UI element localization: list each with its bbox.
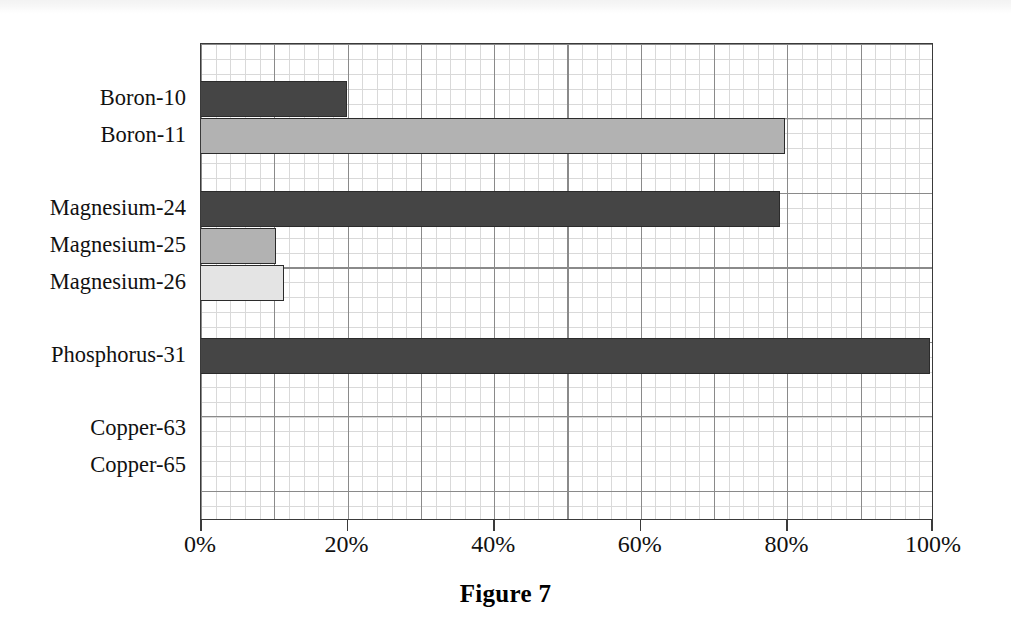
category-label: Boron-10 [100,87,186,110]
bar-row [201,191,932,227]
x-tick-mark [200,520,202,531]
x-tick-mark [640,520,642,531]
x-tick-label: 100% [905,531,961,558]
scan-ghost-text [0,14,1011,40]
bar-row [201,448,932,484]
category-label: Magnesium-24 [50,197,186,220]
bar [201,338,930,374]
category-label: Magnesium-26 [50,271,186,294]
bar [201,228,276,264]
bar [201,118,785,154]
bar [201,265,284,301]
category-label: Boron-11 [101,124,186,147]
figure-caption: Figure 7 [0,580,1011,608]
bar-row [201,81,932,117]
bar-row [201,338,932,374]
category-label: Copper-63 [90,417,186,440]
x-tick-label: 20% [325,531,369,558]
x-tick-mark [931,520,933,531]
x-tick-label: 40% [471,531,515,558]
bar-rows [201,44,932,519]
bar [201,191,780,227]
x-tick-mark [786,520,788,531]
bar-row [201,118,932,154]
x-axis-ticks [200,520,933,531]
x-tick-mark [493,520,495,531]
bar [201,81,347,117]
scan-bleed-band [0,0,1011,14]
category-label: Phosphorus-31 [51,344,186,367]
chart-plot-area [200,43,933,520]
x-tick-label: 0% [184,531,216,558]
bar-row [201,228,932,264]
figure-page: Boron-10Boron-11Magnesium-24Magnesium-25… [0,0,1011,643]
bar-row [201,411,932,447]
x-tick-label: 60% [618,531,662,558]
x-tick-mark [347,520,349,531]
bar-row [201,265,932,301]
x-tick-label: 80% [764,531,808,558]
category-label: Magnesium-25 [50,234,186,257]
category-axis-labels: Boron-10Boron-11Magnesium-24Magnesium-25… [0,43,196,520]
category-label: Copper-65 [90,454,186,477]
x-axis-labels: 0%20%40%60%80%100% [0,531,1011,565]
